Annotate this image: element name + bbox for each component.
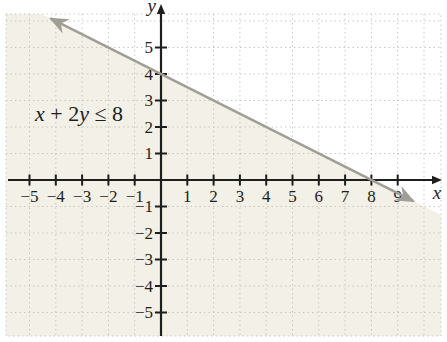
x-tick-label: −4: [47, 187, 66, 206]
y-tick-label: 1: [145, 144, 154, 163]
x-tick-label: 1: [183, 187, 192, 206]
x-tick-label: 7: [341, 187, 350, 206]
x-tick-label: −3: [73, 187, 91, 206]
y-axis-label: y: [146, 0, 157, 16]
x-tick-label: −5: [20, 187, 38, 206]
x-tick-label: 2: [209, 187, 218, 206]
x-tick-label: 9: [393, 187, 402, 206]
x-tick-label: 6: [315, 187, 324, 206]
inequality-label: x + 2y ≤ 8: [34, 101, 123, 126]
y-tick-label: −3: [135, 250, 153, 269]
y-tick-label: 2: [145, 118, 154, 137]
y-tick-label: −5: [135, 303, 153, 322]
x-tick-label: 8: [367, 187, 376, 206]
coordinate-plane: −5−4−3−2−112345678954321−1−2−3−4−5xyx + …: [0, 0, 447, 342]
y-tick-label: −2: [135, 224, 153, 243]
inequality-graph-figure: −5−4−3−2−112345678954321−1−2−3−4−5xyx + …: [0, 0, 447, 342]
y-tick-label: 5: [145, 38, 154, 57]
x-axis-label: x: [432, 182, 442, 203]
solution-region-shading: [6, 14, 441, 336]
x-tick-label: 4: [262, 187, 271, 206]
y-tick-label: −1: [135, 197, 153, 216]
x-tick-label: 5: [288, 187, 297, 206]
y-axis-arrowhead: [157, 4, 165, 14]
x-tick-label: 3: [236, 187, 245, 206]
y-tick-label: 3: [145, 91, 154, 110]
x-tick-label: −2: [99, 187, 117, 206]
y-tick-label: −4: [135, 277, 154, 296]
